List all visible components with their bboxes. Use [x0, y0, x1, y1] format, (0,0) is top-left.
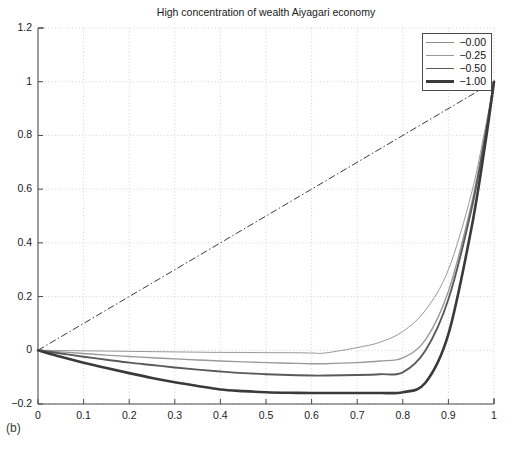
x-axis-tick-label: 0.4 [205, 409, 235, 421]
y-axis-tick-label: −0.2 [2, 397, 32, 409]
legend-item-label: −1.00 [454, 76, 488, 87]
y-axis-tick-label: 0.6 [2, 182, 32, 194]
legend-item-label: −0.50 [454, 63, 488, 74]
y-axis-tick-label: 1 [2, 75, 32, 87]
legend-item-label: −0.25 [454, 50, 488, 61]
x-axis-tick-label: 0.6 [297, 409, 327, 421]
x-axis-tick-label: 0.2 [114, 409, 144, 421]
series-line-3 [38, 82, 494, 393]
legend-line-swatch [426, 38, 454, 48]
legend-item: −0.50 [423, 62, 491, 75]
x-axis-tick-label: 0 [23, 409, 53, 421]
y-axis-tick-label: 0.4 [2, 236, 32, 248]
legend-line-swatch [426, 77, 454, 87]
legend-item: −0.25 [423, 49, 491, 62]
legend: −0.00−0.25−0.50−1.00 [422, 33, 492, 91]
legend-item-label: −0.00 [454, 37, 488, 48]
x-axis-tick-label: 0.5 [251, 409, 281, 421]
legend-item: −1.00 [423, 75, 491, 88]
panel-label: (b) [6, 421, 21, 435]
legend-line-swatch [426, 64, 454, 74]
x-axis-tick-label: 0.3 [160, 409, 190, 421]
x-axis-tick-label: 1 [479, 409, 509, 421]
legend-line-swatch [426, 51, 454, 61]
y-axis-tick-label: 0.8 [2, 128, 32, 140]
y-axis-tick-label: 1.2 [2, 21, 32, 33]
x-axis-tick-label: 0.1 [69, 409, 99, 421]
x-axis-tick-label: 0.8 [388, 409, 418, 421]
figure-container: High concentration of wealth Aiyagari ec… [0, 0, 515, 457]
y-axis-tick-label: 0 [2, 343, 32, 355]
x-axis-tick-label: 0.9 [433, 409, 463, 421]
y-axis-tick-label: 0.2 [2, 290, 32, 302]
legend-item: −0.00 [423, 36, 491, 49]
x-axis-tick-label: 0.7 [342, 409, 372, 421]
